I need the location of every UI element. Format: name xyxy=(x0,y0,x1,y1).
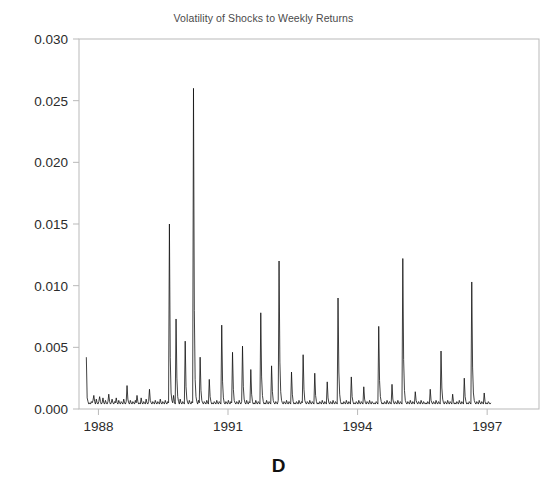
y-axis-tick-labels: 0.0000.0050.0100.0150.0200.0250.030 xyxy=(6,0,68,494)
x-tick-label: 1991 xyxy=(198,419,258,434)
x-axis-ticks xyxy=(98,409,487,415)
panel-label: D xyxy=(0,455,557,477)
y-tick-label: 0.030 xyxy=(6,32,68,47)
x-tick-label: 1988 xyxy=(68,419,128,434)
chart-title: Volatility of Shocks to Weekly Returns xyxy=(0,12,527,24)
y-tick-label: 0.020 xyxy=(6,155,68,170)
y-tick-label: 0.015 xyxy=(6,217,68,232)
plot-frame xyxy=(79,39,539,409)
y-tick-label: 0.005 xyxy=(6,340,68,355)
y-tick-label: 0.010 xyxy=(6,278,68,293)
y-tick-label: 0.025 xyxy=(6,93,68,108)
y-axis-ticks xyxy=(73,39,79,409)
x-tick-label: 1997 xyxy=(457,419,517,434)
x-tick-label: 1994 xyxy=(328,419,388,434)
chart-figure: Volatility of Shocks to Weekly Returns 0… xyxy=(0,0,557,494)
y-tick-label: 0.000 xyxy=(6,402,68,417)
